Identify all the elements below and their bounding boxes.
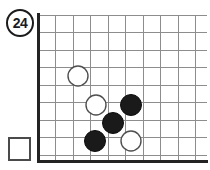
black-stone[interactable] <box>121 95 142 116</box>
black-stone[interactable] <box>103 113 124 134</box>
black-stone[interactable] <box>85 131 106 152</box>
white-stone[interactable] <box>68 66 88 86</box>
go-board-diagram: 24 <box>0 0 210 170</box>
legend-empty-square[interactable] <box>8 137 31 161</box>
white-stone[interactable] <box>121 131 141 151</box>
move-number-badge: 24 <box>6 9 34 37</box>
goban[interactable] <box>36 12 208 164</box>
white-stone[interactable] <box>86 95 106 115</box>
move-number-label: 24 <box>13 16 28 30</box>
grid-lines-horizontal <box>38 15 207 155</box>
